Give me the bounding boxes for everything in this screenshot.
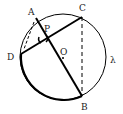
label-b: B xyxy=(81,102,88,112)
label-lambda: λ xyxy=(110,55,116,65)
circle-geometry-figure: A C P D O λ B xyxy=(0,0,123,114)
arc-db xyxy=(21,54,82,100)
label-o: O xyxy=(60,47,67,57)
figure-canvas: A C P D O λ B xyxy=(0,0,123,114)
label-d: D xyxy=(7,52,14,62)
chord-dc xyxy=(21,17,82,54)
label-c: C xyxy=(79,3,86,13)
label-p: P xyxy=(44,24,50,34)
chord-ab xyxy=(36,18,82,96)
angle-mark-p xyxy=(39,37,41,43)
center-dot-o xyxy=(62,57,64,59)
label-a: A xyxy=(27,7,35,17)
